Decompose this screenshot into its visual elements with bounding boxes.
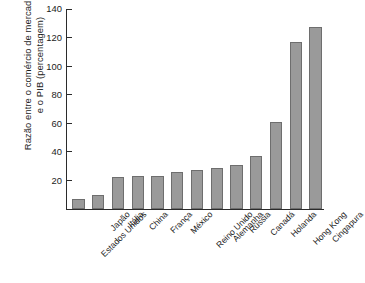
y-axis-title-line-1: Razão entre o comércio de mercadorias	[22, 0, 35, 150]
y-tick-label-40: 40	[36, 147, 62, 156]
y-tick-label-140: 140	[36, 4, 62, 13]
bar-méxico	[171, 172, 183, 209]
bar-japão	[92, 195, 104, 209]
x-label-china: China	[148, 210, 170, 232]
bar-itália	[112, 177, 124, 209]
bar-holanda	[270, 122, 282, 209]
plot-area	[66, 9, 324, 210]
y-tick-label-80: 80	[36, 90, 62, 99]
bar-frança	[151, 176, 163, 209]
bar-china	[132, 176, 144, 209]
bar-canadá	[250, 156, 262, 209]
bar-cingapura	[309, 27, 321, 209]
bar-hong-kong	[290, 42, 302, 209]
x-axis-category-labels: Estados UnidosJapãoItáliaChinaFrançaMéxi…	[66, 210, 332, 283]
bar-series	[67, 9, 324, 209]
y-tick-label-100: 100	[36, 62, 62, 71]
y-axis-tick-labels: 20406080100120140	[36, 0, 62, 283]
bar-alemanha	[211, 168, 223, 209]
y-tick-label-120: 120	[36, 33, 62, 42]
y-tick-label-20: 20	[36, 176, 62, 185]
bar-estados-unidos	[72, 199, 84, 209]
y-tick-label-60: 60	[36, 119, 62, 128]
bar-rússia	[230, 165, 242, 209]
bar-reino-unido	[191, 170, 203, 209]
